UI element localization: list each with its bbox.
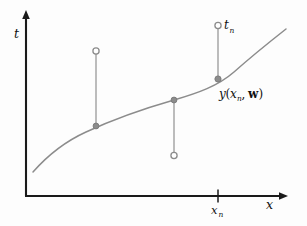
target-marker-1 [93,48,99,54]
target-label-tn: t n [224,18,235,35]
curve-label-w: w [247,87,259,101]
curve-label-x: x [230,87,237,101]
prediction-marker-2 [171,97,177,103]
regression-figure: t x x n t n y ( x n , w ) [0,0,307,226]
y-axis-arrowhead [22,10,30,19]
curve-label-comma: , [242,87,246,101]
x-axis-label: x [266,197,273,212]
x-tick-label-base: x [211,203,218,217]
prediction-marker-1 [93,123,99,129]
figure-canvas: t x x n t n y ( x n , w ) [0,0,307,226]
x-tick-label-xn: x n [211,203,223,219]
data-point-2 [171,97,177,158]
target-marker-2 [171,152,177,158]
x-axis-arrowhead [279,192,288,200]
target-marker-3 [215,22,221,28]
prediction-marker-3 [215,76,221,82]
curve-label-paren-close: ) [259,87,264,101]
y-axis-label: t [14,26,20,41]
target-label-base: t [224,18,229,32]
data-point-3 [215,22,221,82]
target-label-subscript: n [230,26,235,35]
curve-label-yxnw: y ( x n , w ) [218,87,263,103]
x-tick-label-subscript: n [218,210,223,219]
data-point-1 [93,48,99,129]
